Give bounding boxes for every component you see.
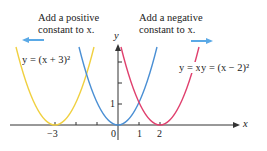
- y-axis-label: y: [114, 30, 119, 41]
- y-tick-label-1: 1: [110, 98, 115, 109]
- x-axis-label: x: [243, 118, 248, 129]
- x-axis-arrow-icon: [233, 122, 240, 128]
- right-annotation-line1: Add a negative: [139, 12, 203, 24]
- x-tick-label-1: 1: [137, 128, 142, 139]
- left-annotation-line1: Add a positive: [38, 12, 99, 24]
- left-annotation: Add a positive constant to x.: [38, 12, 99, 36]
- y-ticks: [118, 62, 122, 104]
- x-tick-label-0: 0: [111, 128, 116, 139]
- left-annotation-line2: constant to x.: [38, 24, 99, 36]
- equation-right-shift: y = (x − 2)²: [200, 62, 250, 73]
- y-axis-arrow-icon: [115, 44, 121, 51]
- x-tick-label-neg3: −3: [47, 128, 58, 139]
- x-tick-label-2: 2: [157, 128, 162, 139]
- right-annotation: Add a negative constant to x.: [139, 12, 203, 36]
- right-annotation-line2: constant to x.: [139, 24, 203, 36]
- arrow-right-icon: [191, 38, 213, 44]
- arrow-left-icon: [22, 37, 44, 43]
- equation-left-shift: y = (x + 3)²: [21, 54, 71, 65]
